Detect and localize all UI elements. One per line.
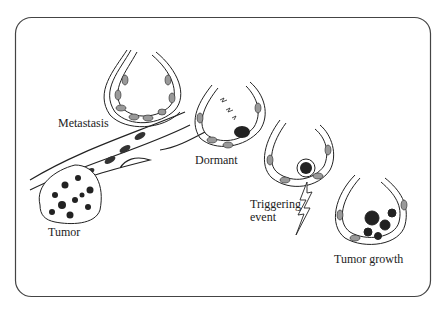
label-tumor: Tumor [48,226,80,239]
label-dormant: Dormant [195,154,238,167]
label-tumor-growth: Tumor growth [334,253,403,266]
metastasis-diagram: Metastasis Tumor Dormant Triggering even… [0,0,446,314]
capillary-metastasis [104,50,181,127]
label-metastasis: Metastasis [58,117,109,130]
growing-tumor-cells [364,209,396,240]
dormant-cell [234,126,250,138]
activated-cell [300,162,312,174]
capillary-dormant [195,82,265,146]
primary-tumor [39,165,101,224]
label-event: event [250,211,276,224]
sleep-zigzag-icon [220,98,236,120]
